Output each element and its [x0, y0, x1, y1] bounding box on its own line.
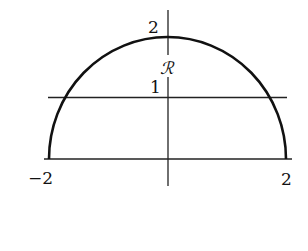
y-tick-label-1: 1 — [150, 77, 161, 97]
region-diagram: 2 ℛ 1 −2 2 — [0, 0, 308, 251]
region-label: ℛ — [160, 58, 175, 78]
x-tick-label-neg2: −2 — [28, 168, 53, 188]
x-tick-label-2: 2 — [281, 169, 292, 189]
y-tick-label-2: 2 — [148, 17, 159, 37]
